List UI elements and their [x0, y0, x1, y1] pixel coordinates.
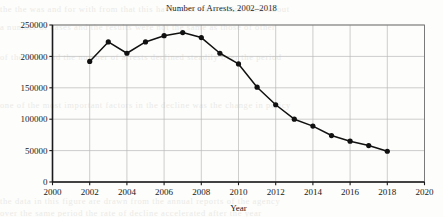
svg-text:2006: 2006 — [155, 187, 174, 197]
svg-text:200000: 200000 — [21, 52, 49, 62]
svg-text:50000: 50000 — [25, 146, 48, 156]
svg-text:2012: 2012 — [267, 187, 285, 197]
chart-plot-area: 050000100000150000200000250000 200020022… — [0, 0, 443, 217]
svg-text:2008: 2008 — [192, 187, 211, 197]
axis-lines — [49, 25, 424, 185]
svg-text:0: 0 — [43, 177, 48, 187]
svg-text:250000: 250000 — [21, 20, 49, 30]
x-axis-tick-labels: 2000200220042006200820102012201420162018… — [44, 187, 435, 197]
svg-text:2002: 2002 — [81, 187, 99, 197]
svg-text:2014: 2014 — [304, 187, 323, 197]
chart-figure: the the was and for with from that this … — [0, 0, 443, 217]
svg-text:2020: 2020 — [416, 187, 435, 197]
svg-text:2000: 2000 — [44, 187, 63, 197]
y-axis-tick-labels: 050000100000150000200000250000 — [21, 20, 49, 187]
svg-text:2010: 2010 — [230, 187, 249, 197]
svg-text:2018: 2018 — [378, 187, 397, 197]
svg-text:100000: 100000 — [21, 114, 49, 124]
svg-text:2016: 2016 — [341, 187, 360, 197]
grid-lines — [53, 25, 425, 182]
x-axis-label: Year — [230, 203, 247, 213]
svg-text:2004: 2004 — [118, 187, 137, 197]
svg-text:150000: 150000 — [21, 83, 49, 93]
